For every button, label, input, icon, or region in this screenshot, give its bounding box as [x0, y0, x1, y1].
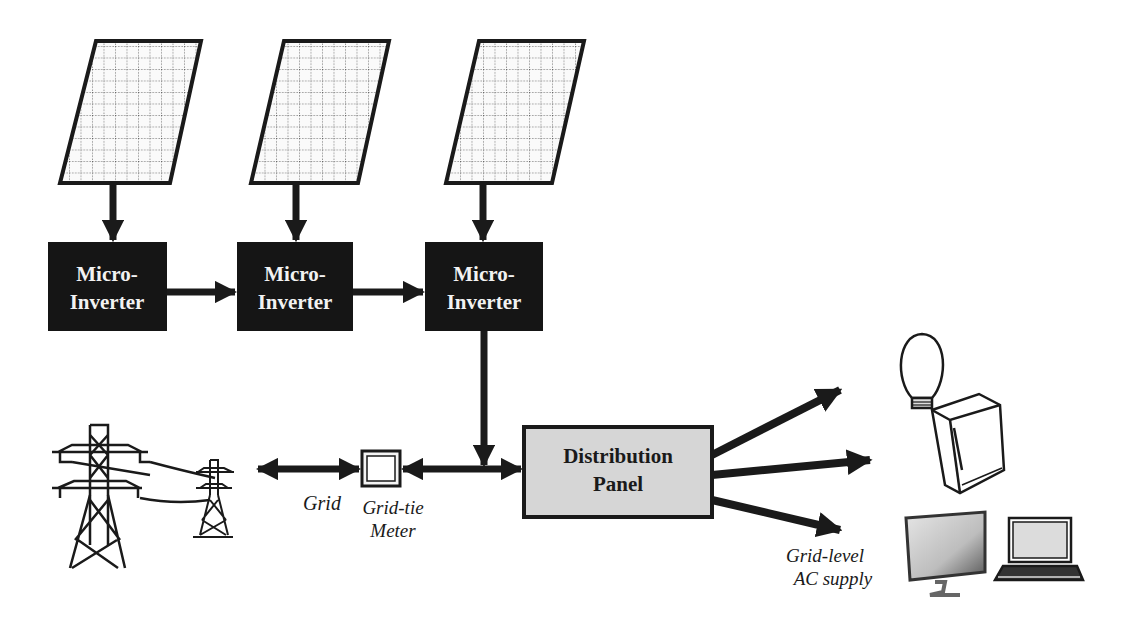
supply-label-line1: Grid-level [786, 545, 864, 566]
solar-panel-2 [251, 41, 389, 183]
inverter-label-line1: Micro- [76, 262, 137, 286]
inverter-label-line2: Inverter [70, 290, 145, 314]
light-bulb-icon [901, 334, 943, 408]
meter-label-line2: Meter [369, 520, 416, 541]
panel-to-load-arrows [712, 390, 870, 530]
inverter-label-line1: Micro- [453, 262, 514, 286]
micro-inverter-1: Micro- Inverter [48, 242, 167, 331]
grid-tie-meter [362, 451, 400, 486]
meter-label-line1: Grid-tie [362, 497, 423, 518]
solar-microinverter-diagram: Micro- Inverter Micro- Inverter Micro- I… [0, 0, 1133, 627]
grid-label: Grid [303, 492, 342, 514]
inverter-label-line2: Inverter [447, 290, 522, 314]
supply-label-line2: AC supply [792, 568, 873, 589]
distribution-panel: Distribution Panel [524, 427, 712, 517]
micro-inverter-2: Micro- Inverter [237, 242, 353, 331]
inverter-label-line2: Inverter [258, 290, 333, 314]
solar-panel-3 [446, 41, 584, 183]
inverter-label-line1: Micro- [264, 262, 325, 286]
solar-panel-icon [446, 41, 584, 183]
solar-panel-icon [60, 41, 201, 183]
monitor-icon [906, 512, 985, 595]
transmission-tower-icon [193, 460, 234, 537]
panel-to-inverter-arrows [113, 184, 483, 240]
solar-panel-1 [60, 41, 201, 183]
distribution-panel-line1: Distribution [563, 444, 673, 468]
refrigerator-icon [932, 394, 1004, 493]
micro-inverter-3: Micro- Inverter [425, 242, 543, 331]
transmission-tower-icon [52, 425, 215, 568]
laptop-icon [995, 518, 1083, 580]
solar-panel-icon [251, 41, 389, 183]
distribution-panel-line2: Panel [593, 472, 643, 496]
